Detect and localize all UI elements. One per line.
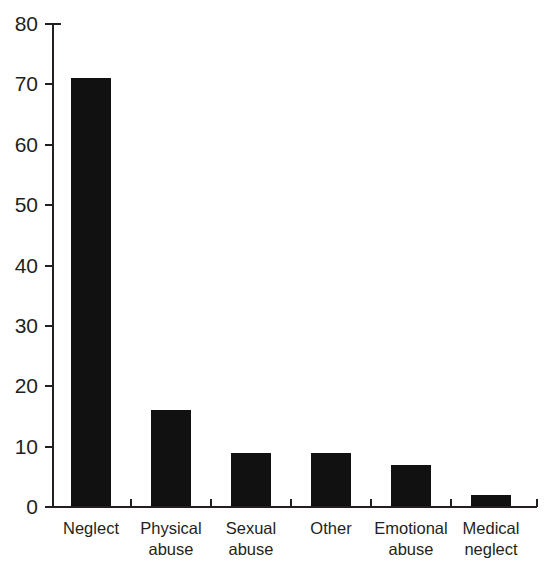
bar-medical-neglect xyxy=(471,495,511,507)
x-label-line: neglect xyxy=(464,540,518,558)
x-label-line: Physical xyxy=(140,519,201,537)
bar-neglect xyxy=(71,78,111,507)
y-tick-label-20: 20 xyxy=(15,374,38,397)
x-label-line: Sexual xyxy=(226,519,276,537)
y-tick-labels: 01020304050607080 xyxy=(15,12,38,518)
bar-chart: 01020304050607080 NeglectPhysicalabuseSe… xyxy=(0,0,549,579)
y-tick-label-80: 80 xyxy=(15,12,38,35)
y-tick-label-0: 0 xyxy=(26,495,38,518)
y-tick-label-50: 50 xyxy=(15,193,38,216)
chart-canvas: 01020304050607080 NeglectPhysicalabuseSe… xyxy=(0,0,549,579)
bar-other xyxy=(311,453,351,507)
y-tick-label-30: 30 xyxy=(15,314,38,337)
bar-emotional-abuse xyxy=(391,465,431,507)
y-tick-label-60: 60 xyxy=(15,133,38,156)
x-label-line: abuse xyxy=(229,540,274,558)
bar-physical-abuse xyxy=(151,410,191,507)
y-tick-label-40: 40 xyxy=(15,254,38,277)
bar-sexual-abuse xyxy=(231,453,271,507)
x-label-line: Emotional xyxy=(374,519,447,537)
x-label-neglect: Neglect xyxy=(63,519,119,537)
x-label-line: Medical xyxy=(463,519,520,537)
x-label-line: abuse xyxy=(149,540,194,558)
x-label-line: Other xyxy=(310,519,352,537)
x-label-line: Neglect xyxy=(63,519,119,537)
y-tick-label-10: 10 xyxy=(15,435,38,458)
x-label-other: Other xyxy=(310,519,352,537)
y-tick-label-70: 70 xyxy=(15,72,38,95)
x-label-line: abuse xyxy=(389,540,434,558)
